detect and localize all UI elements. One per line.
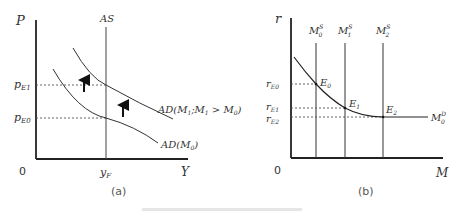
origin-label: 0	[274, 164, 281, 177]
m0-supply-label: MS0	[308, 23, 323, 38]
m2-supply-label: MS2	[375, 23, 390, 38]
output-axis-label: Y	[181, 165, 190, 179]
panel-a: P AS pE1 pE0 AD(M1;M1 > M0) AD(M0) 0 yF …	[14, 13, 241, 198]
e0-label: E0	[319, 77, 331, 89]
e1-label: E1	[348, 98, 360, 110]
interest-axis-label: r	[275, 11, 282, 26]
ad-m0-label: AD(M0)	[160, 139, 198, 151]
cropped-footer-text	[142, 208, 302, 211]
economics-figure: P AS pE1 pE0 AD(M1;M1 > M0) AD(M0) 0 yF …	[0, 0, 459, 211]
money-demand-label: MD0	[430, 110, 446, 125]
rE2-label: rE2	[266, 113, 279, 125]
price-axis-label: P	[15, 13, 25, 28]
yF-label: yF	[99, 166, 112, 180]
money-demand-curve	[294, 57, 428, 117]
origin-label: 0	[19, 165, 26, 178]
money-axis-label: M	[435, 166, 449, 180]
e2-label: E2	[385, 104, 397, 116]
panel-a-caption: (a)	[111, 185, 126, 198]
rE0-label: rE0	[266, 78, 279, 90]
equilibrium-e0-point	[315, 83, 318, 86]
panel-b-caption: (b)	[358, 185, 374, 198]
as-label: AS	[99, 13, 114, 24]
equilibrium-e2-point	[382, 116, 385, 119]
panel-b: r MS0 MS1 MS2 rE0 rE1 rE2 E0 E1 E2 MD0	[266, 11, 449, 198]
pE1-label: pE1	[14, 78, 31, 92]
rE1-label: rE1	[266, 101, 279, 113]
m1-supply-label: MS1	[337, 23, 352, 38]
pE0-label: pE0	[14, 111, 31, 125]
equilibrium-e1-point	[344, 107, 347, 110]
ad-m1-label: AD(M1;M1 > M0)	[157, 104, 241, 116]
